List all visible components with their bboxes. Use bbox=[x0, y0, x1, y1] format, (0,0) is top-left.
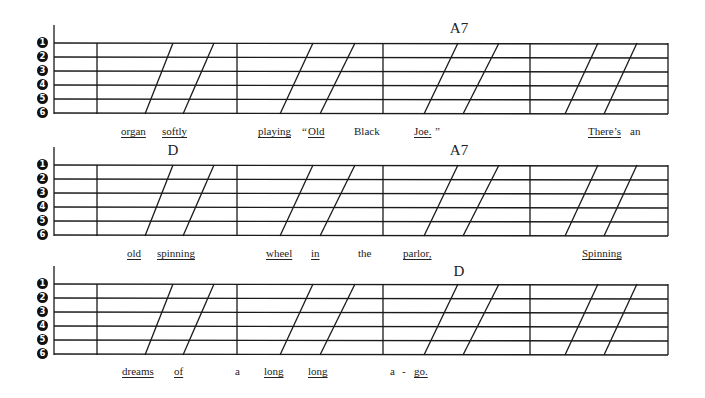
string-number-2: 2 bbox=[37, 51, 48, 62]
string-number-3: 3 bbox=[37, 187, 48, 198]
string-number-5: 5 bbox=[37, 93, 48, 104]
lyric-word: a bbox=[390, 365, 395, 377]
chord-symbol: A7 bbox=[450, 142, 468, 159]
lyric-word: a bbox=[235, 365, 240, 377]
string-number-4: 4 bbox=[37, 201, 48, 212]
string-number-6: 6 bbox=[37, 348, 48, 359]
string-number-6: 6 bbox=[37, 107, 48, 118]
string-number-2: 2 bbox=[37, 173, 48, 184]
string-number-5: 5 bbox=[37, 215, 48, 226]
string-number-1: 1 bbox=[37, 37, 48, 48]
string-number-4: 4 bbox=[37, 79, 48, 90]
lyric-word: - bbox=[402, 365, 406, 377]
lyric-word: long bbox=[264, 365, 284, 377]
string-number-6: 6 bbox=[37, 229, 48, 240]
staff-lines bbox=[0, 0, 705, 140]
lyric-word: of bbox=[174, 365, 183, 377]
string-number-1: 1 bbox=[37, 278, 48, 289]
system-3: 123456Ddreamsofalonglonga-go. bbox=[0, 241, 705, 381]
lyric-word: long bbox=[308, 365, 328, 377]
chord-symbol: A7 bbox=[450, 20, 468, 37]
string-number-2: 2 bbox=[37, 292, 48, 303]
lyric-word: go. bbox=[414, 365, 428, 377]
lyric-word: dreams bbox=[122, 365, 154, 377]
string-number-5: 5 bbox=[37, 334, 48, 345]
staff-lines bbox=[0, 241, 705, 381]
chord-symbol: D bbox=[454, 263, 465, 280]
string-number-4: 4 bbox=[37, 320, 48, 331]
string-number-3: 3 bbox=[37, 65, 48, 76]
string-number-1: 1 bbox=[37, 159, 48, 170]
chord-symbol: D bbox=[168, 142, 179, 159]
system-1: 123456A7organsoftlyplaying“OldBlackJoe.”… bbox=[0, 0, 705, 140]
string-number-3: 3 bbox=[37, 306, 48, 317]
